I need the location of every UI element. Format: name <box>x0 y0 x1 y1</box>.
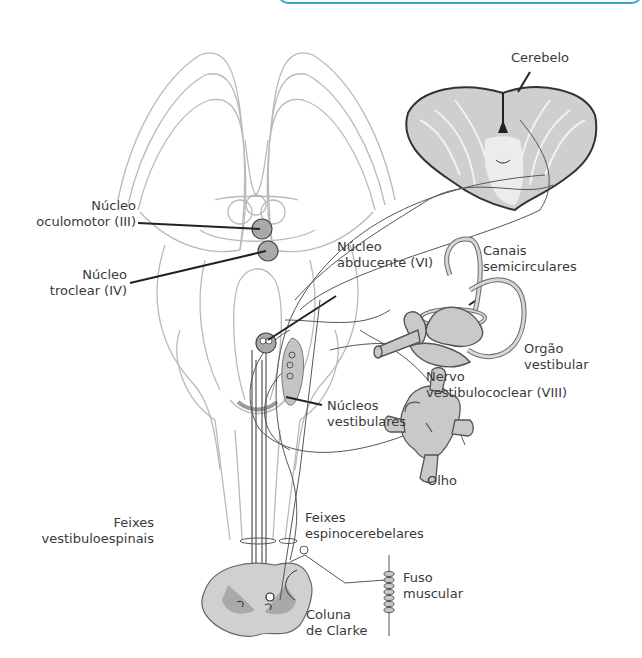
cerebellum <box>406 87 596 210</box>
label-oculomotor: Núcleo oculomotor (III) <box>36 198 136 230</box>
medulla-arc <box>238 402 277 410</box>
tract-ring-left <box>240 538 276 544</box>
ganglion-cell <box>300 546 308 554</box>
spinal-cord-section <box>202 563 312 636</box>
vestibular-nuclei-region <box>282 338 304 405</box>
muscle-spindle <box>384 555 394 636</box>
label-troclear: Núcleo troclear (IV) <box>50 267 127 299</box>
label-cerebelo: Cerebelo <box>511 50 569 66</box>
label-canais: Canais semicirculares <box>483 243 577 275</box>
label-nucleos-vestibulares: Núcleos vestibulares <box>327 398 406 430</box>
clarke-column-dot <box>266 593 274 601</box>
label-feixes-vestibuloespinais: Feixes vestibuloespinais <box>42 515 154 547</box>
label-olho: Olho <box>427 473 457 489</box>
label-fuso-muscular: Fuso muscular <box>403 570 463 602</box>
trochlear-nucleus <box>258 241 278 261</box>
label-nervo: Nervo vestibulococlear (VIII) <box>426 369 567 401</box>
label-feixes-espinocerebelares: Feixes espinocerebelares <box>305 510 424 542</box>
label-abducente: Núcleo abducente (VI) <box>337 239 433 271</box>
vestibulospinal-tracts <box>252 350 266 595</box>
label-coluna-clarke: Coluna de Clarke <box>306 607 367 639</box>
